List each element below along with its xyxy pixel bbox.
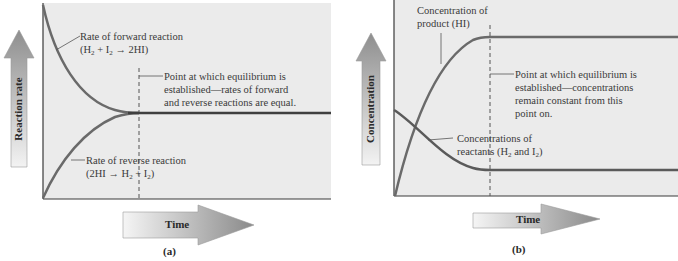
forward-reaction-equation: (H2 + I2 → 2HI) [80,43,183,56]
panel-caption-a: (a) [163,245,176,257]
panel-a-reaction-rate-chart: Rate of forward reaction (H2 + I2 → 2HI)… [0,0,338,261]
y-axis-label-b: Concentration [364,67,378,151]
x-axis-label-a: Time [165,218,189,230]
leader-reactants [428,138,453,140]
reverse-reaction-label: Rate of reverse reaction (2HI → H2 + I2) [86,154,186,180]
reverse-reaction-equation: (2HI → H2 + I2) [86,167,186,180]
panel-b-concentration-chart: Concentration of product (HI) Point at w… [338,0,678,261]
forward-rate-curve [43,5,139,113]
reactants-formula: reactants (H2 and I2) [457,145,542,158]
x-axis-label-b: Time [516,213,540,225]
reactants-concentration-label: Concentrations of reactants (H2 and I2) [457,132,542,158]
equilibrium-label-b: Point at which equilibrium is establishe… [515,68,637,120]
y-axis-label-a: Reaction rate [12,68,26,150]
forward-reaction-label: Rate of forward reaction (H2 + I2 → 2HI) [80,30,183,56]
panel-caption-b: (b) [512,243,525,255]
plot-curves-b [338,0,678,261]
leader-forward [56,36,80,50]
product-concentration-label: Concentration of product (HI) [417,4,488,30]
equilibrium-label-a: Point at which equilibrium is establishe… [164,70,296,109]
